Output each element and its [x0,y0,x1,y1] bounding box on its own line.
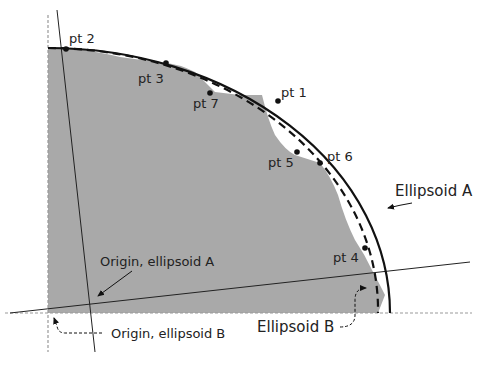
origin-a-label: Origin, ellipsoid A [100,254,214,269]
point-marker [207,90,213,96]
point-marker [317,160,323,166]
point-marker [63,46,69,52]
ellipsoid-a-label: Ellipsoid A [395,182,473,200]
origin-b-arrow [54,318,102,333]
ellipsoid-diagram: pt 1pt 2pt 3pt 4pt 5pt 6pt 7 Ellipsoid A… [0,0,501,366]
point-label: pt 4 [333,250,359,265]
point-marker [275,98,281,104]
point-marker [362,245,368,251]
point-label: pt 3 [138,71,164,86]
point-marker [163,60,169,66]
point-label: pt 6 [327,149,353,164]
origin-b-label: Origin, ellipsoid B [111,326,225,341]
point-label: pt 1 [281,85,307,100]
point-marker [294,149,300,155]
point-label: pt 5 [268,155,294,170]
point-label: pt 7 [193,96,219,111]
ellipsoid-a-arrow [388,203,412,208]
point-label: pt 2 [69,31,95,46]
ellipsoid-b-label: Ellipsoid B [257,318,334,336]
